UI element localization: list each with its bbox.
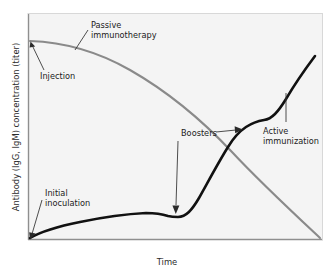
antibody-response-figure: Passive immunotherapy Injection Initial … [0, 0, 335, 276]
x-axis-title: Time [156, 257, 178, 267]
passive-immunotherapy-label-line2: immunotherapy [91, 30, 157, 40]
active-immunization-label-line1: Active [263, 126, 288, 136]
initial-inoculation-label-line2: inoculation [45, 198, 90, 208]
passive-immunotherapy-label-line1: Passive [91, 20, 121, 30]
y-axis-title: Antibody (IgG, IgM) concentration (titer… [11, 43, 21, 212]
initial-inoculation-label-line1: Initial [45, 188, 68, 198]
chart-canvas: Passive immunotherapy Injection Initial … [0, 0, 335, 276]
active-immunization-label-line2: immunization [263, 136, 319, 146]
injection-label: Injection [40, 71, 75, 81]
boosters-label: Boosters [181, 128, 217, 138]
